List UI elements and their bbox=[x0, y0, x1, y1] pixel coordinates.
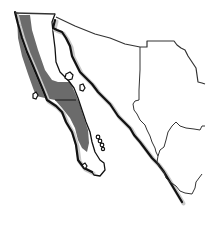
island-tiburon bbox=[80, 84, 85, 91]
range-map bbox=[0, 0, 218, 225]
island-small-4 bbox=[101, 147, 104, 150]
map-canvas bbox=[0, 0, 218, 225]
island-small-3 bbox=[100, 143, 104, 147]
island-cedros bbox=[33, 92, 38, 99]
international-border-chihuahua bbox=[140, 41, 205, 84]
island-small-1 bbox=[96, 135, 100, 139]
state-boundary-chihuahua-sinaloa bbox=[158, 122, 205, 156]
island-angel-de-la-guarda bbox=[65, 72, 73, 80]
island-small-2 bbox=[98, 139, 102, 143]
state-boundary-sinaloa-durango bbox=[157, 156, 202, 194]
international-border-west bbox=[15, 13, 55, 14]
